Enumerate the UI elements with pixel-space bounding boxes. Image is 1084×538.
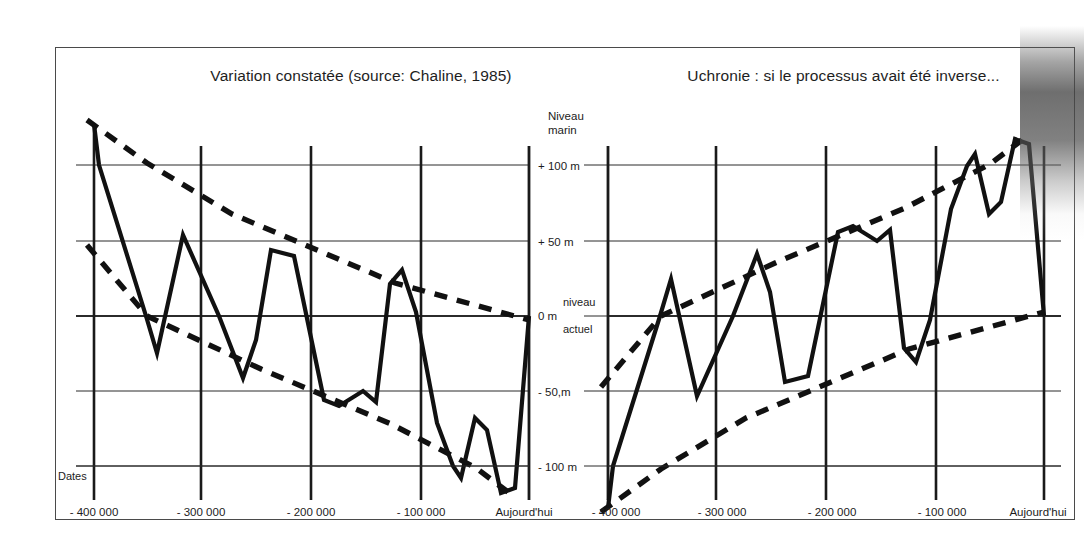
y-tick-label-100: + 100 m <box>538 160 580 172</box>
y-tick-label-minus100: - 100 m <box>538 461 577 473</box>
right-x-tick-400000: - 400 000 <box>592 506 641 518</box>
left-x-tick-400000: - 400 000 <box>70 506 119 518</box>
panel-left: Dates - 400 000 - 300 000 - 200 000 - 10… <box>58 120 553 518</box>
y-tick-label-0: 0 m <box>538 310 557 322</box>
zero-note-line1: niveau <box>563 296 595 308</box>
x-axis-caption-left: Dates <box>58 470 87 482</box>
y-axis-caption-line2: marin <box>548 124 577 136</box>
y-tick-marks <box>584 165 608 466</box>
left-x-tick-today: Aujourd'hui <box>495 506 552 518</box>
right-lower-envelope <box>601 312 1044 512</box>
sea-level-chart: Niveau marin + 100 m + 50 m 0 m - 50,m -… <box>56 48 1076 521</box>
left-gridlines-vertical <box>94 124 529 500</box>
y-axis-caption-line1: Niveau <box>548 110 584 122</box>
left-x-tick-100000: - 100 000 <box>397 506 446 518</box>
right-gridlines-vertical <box>608 146 1044 500</box>
panel-right: - 400 000 - 300 000 - 200 000 - 100 000 … <box>592 139 1067 518</box>
left-upper-envelope <box>87 120 529 320</box>
right-x-tick-300000: - 300 000 <box>698 506 747 518</box>
figure-page: Variation constatée (source: Chaline, 19… <box>0 0 1084 538</box>
right-x-tick-100000: - 100 000 <box>918 506 967 518</box>
zero-note-line2: actuel <box>563 323 592 335</box>
left-x-tick-200000: - 200 000 <box>287 506 336 518</box>
right-x-tick-200000: - 200 000 <box>808 506 857 518</box>
figure-frame: Variation constatée (source: Chaline, 19… <box>55 47 1075 520</box>
y-tick-label-minus50: - 50,m <box>538 386 571 398</box>
right-x-tick-today: Aujourd'hui <box>1009 506 1066 518</box>
y-tick-label-50: + 50 m <box>538 236 573 248</box>
left-x-tick-300000: - 300 000 <box>177 506 226 518</box>
